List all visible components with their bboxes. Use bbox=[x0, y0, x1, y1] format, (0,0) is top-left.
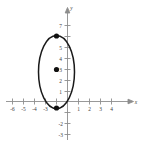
x-tick-label--3: -3 bbox=[43, 106, 48, 112]
x-tick-label--5: -5 bbox=[21, 106, 26, 112]
y-tick-label--2: -2 bbox=[59, 121, 64, 127]
x-axis-arrowhead bbox=[128, 99, 134, 104]
point-top-vertex bbox=[54, 33, 59, 38]
axes-group bbox=[6, 8, 134, 141]
y-tick-labels: 7 5 4 3 2 1 -2 -3 bbox=[59, 23, 64, 138]
plot-canvas: -6 -5 -4 -3 1 2 3 4 7 5 4 3 2 1 -2 -3 x … bbox=[0, 0, 141, 148]
y-tick-label-2: 2 bbox=[59, 78, 62, 84]
y-axis-arrowhead bbox=[65, 8, 70, 14]
y-tick-label-7: 7 bbox=[59, 23, 62, 29]
y-tick-label-3: 3 bbox=[59, 67, 62, 73]
y-tick-label--3: -3 bbox=[59, 132, 64, 138]
x-tick-label--4: -4 bbox=[32, 106, 37, 112]
x-axis-label: x bbox=[134, 99, 138, 105]
x-tick-label-3: 3 bbox=[99, 106, 102, 112]
x-tick-label--6: -6 bbox=[10, 106, 15, 112]
graph-figure: -6 -5 -4 -3 1 2 3 4 7 5 4 3 2 1 -2 -3 x … bbox=[0, 0, 141, 148]
y-axis-label: y bbox=[69, 5, 73, 11]
point-bottom-vertex bbox=[54, 105, 59, 110]
x-tick-label-1: 1 bbox=[77, 106, 80, 112]
x-tick-label-2: 2 bbox=[88, 106, 91, 112]
y-tick-label-1: 1 bbox=[59, 89, 62, 95]
y-tick-label-5: 5 bbox=[59, 45, 62, 51]
x-tick-label-4: 4 bbox=[110, 106, 113, 112]
y-tick-label-4: 4 bbox=[59, 56, 62, 62]
